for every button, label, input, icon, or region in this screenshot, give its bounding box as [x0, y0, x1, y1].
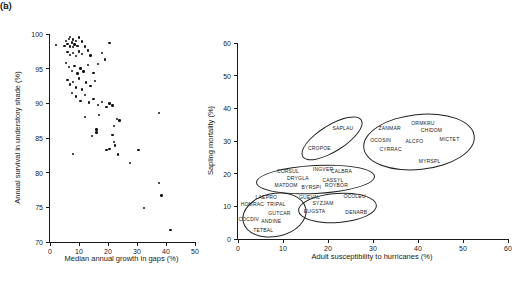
data-point: [66, 51, 68, 53]
x-tick-label: 40: [414, 245, 422, 252]
y-tick-label: 100: [31, 31, 43, 38]
species-label: ZANMAR: [378, 125, 400, 131]
y-tick-label: 0: [227, 236, 231, 243]
y-tick-label: 60: [223, 40, 231, 47]
data-point: [89, 85, 91, 87]
panel-a-y-axis-label: Annual survival in understory shade (%): [13, 33, 22, 242]
data-point: [75, 86, 77, 88]
y-tick-label: 85: [35, 135, 43, 142]
data-point: [117, 153, 119, 155]
panel-a-x-axis-label: Median annual growth in gaps (%): [49, 254, 194, 263]
x-tick-label: 50: [459, 245, 467, 252]
y-tick: [234, 239, 238, 240]
species-label: ORMKRU: [411, 120, 434, 126]
data-point: [104, 58, 106, 60]
data-point: [87, 64, 89, 66]
data-point: [113, 125, 115, 127]
data-point: [71, 70, 73, 72]
x-tick: [79, 242, 80, 246]
y-tick: [46, 172, 50, 173]
species-label: CORSUL: [277, 168, 299, 174]
data-point: [65, 62, 67, 64]
species-label: DRYGLA: [287, 175, 309, 181]
species-label: CYRRAC: [379, 146, 401, 152]
y-tick: [234, 206, 238, 207]
species-label: TRIPAL: [267, 201, 285, 207]
species-label: SAPLAU: [332, 125, 353, 131]
data-point: [92, 98, 94, 100]
y-tick: [234, 173, 238, 174]
species-label: ANDINE: [261, 218, 281, 224]
y-tick-label: 30: [223, 138, 231, 145]
data-point: [82, 70, 84, 72]
y-tick: [46, 34, 50, 35]
data-point: [71, 92, 73, 94]
data-point: [97, 63, 99, 65]
y-tick: [46, 103, 50, 104]
x-tick-label: 20: [324, 245, 332, 252]
data-point: [66, 79, 68, 81]
data-point: [72, 153, 74, 155]
data-point: [101, 52, 103, 54]
data-point: [73, 65, 75, 67]
data-point: [84, 116, 86, 118]
panel-a-plot-area: 01020304050707580859095100: [49, 34, 195, 243]
y-tick-label: 95: [35, 65, 43, 72]
data-point: [81, 88, 83, 90]
data-point: [105, 106, 107, 108]
data-point: [97, 104, 99, 106]
x-tick: [195, 242, 196, 246]
x-tick-label: 0: [236, 245, 240, 252]
species-label: LAEPRO: [256, 194, 278, 200]
data-point: [108, 42, 110, 44]
data-point: [98, 114, 100, 116]
data-point: [69, 83, 71, 85]
species-label: EUGSTA: [304, 208, 325, 214]
data-point: [78, 50, 80, 52]
x-tick: [137, 242, 138, 246]
species-label: ROYBOR: [325, 182, 348, 188]
data-point: [91, 135, 93, 137]
species-label: SYZJAM: [313, 200, 334, 206]
y-tick-label: 75: [35, 204, 43, 211]
panel-b-letter: (b): [0, 0, 12, 11]
data-point: [65, 40, 67, 42]
species-label: TETBAL: [253, 227, 273, 233]
panel-b-y-axis-label: Sapling mortality (%): [206, 43, 215, 239]
panel-b-plot-area: 01020304050600102030405060SAPLAUCROPOEZA…: [237, 43, 508, 240]
x-tick: [373, 239, 374, 243]
x-tick: [463, 239, 464, 243]
y-tick: [46, 207, 50, 208]
species-label: HOMRAC: [241, 201, 264, 207]
x-tick-label: 60: [504, 245, 512, 252]
group-ellipse: [296, 108, 369, 168]
data-point: [94, 80, 96, 82]
data-point: [72, 46, 74, 48]
species-label: DENARB: [345, 209, 367, 215]
y-tick: [46, 68, 50, 69]
y-tick-label: 80: [35, 169, 43, 176]
data-point: [81, 40, 83, 42]
data-point: [137, 149, 139, 151]
x-tick: [283, 239, 284, 243]
species-label: GUEVAL: [299, 194, 320, 200]
species-label: MYRSPL: [419, 158, 441, 164]
data-point: [143, 207, 145, 209]
data-point: [113, 141, 115, 143]
species-label: GUTCAR: [268, 210, 290, 216]
data-point: [75, 95, 77, 97]
data-point: [75, 55, 77, 57]
y-tick: [46, 242, 50, 243]
data-point: [111, 134, 113, 136]
data-point: [169, 229, 171, 231]
x-tick: [108, 242, 109, 246]
y-tick-label: 20: [223, 170, 231, 177]
species-label: COCDIV: [238, 216, 259, 222]
panel-b-x-axis-label: Adult susceptibility to hurricanes (%): [237, 252, 507, 261]
data-point: [158, 182, 160, 184]
species-label: OCOLEU: [343, 193, 365, 199]
data-point: [111, 104, 113, 106]
species-label: ALCFO: [406, 138, 424, 144]
data-point: [68, 38, 70, 40]
species-label: CALBRA: [331, 168, 352, 174]
